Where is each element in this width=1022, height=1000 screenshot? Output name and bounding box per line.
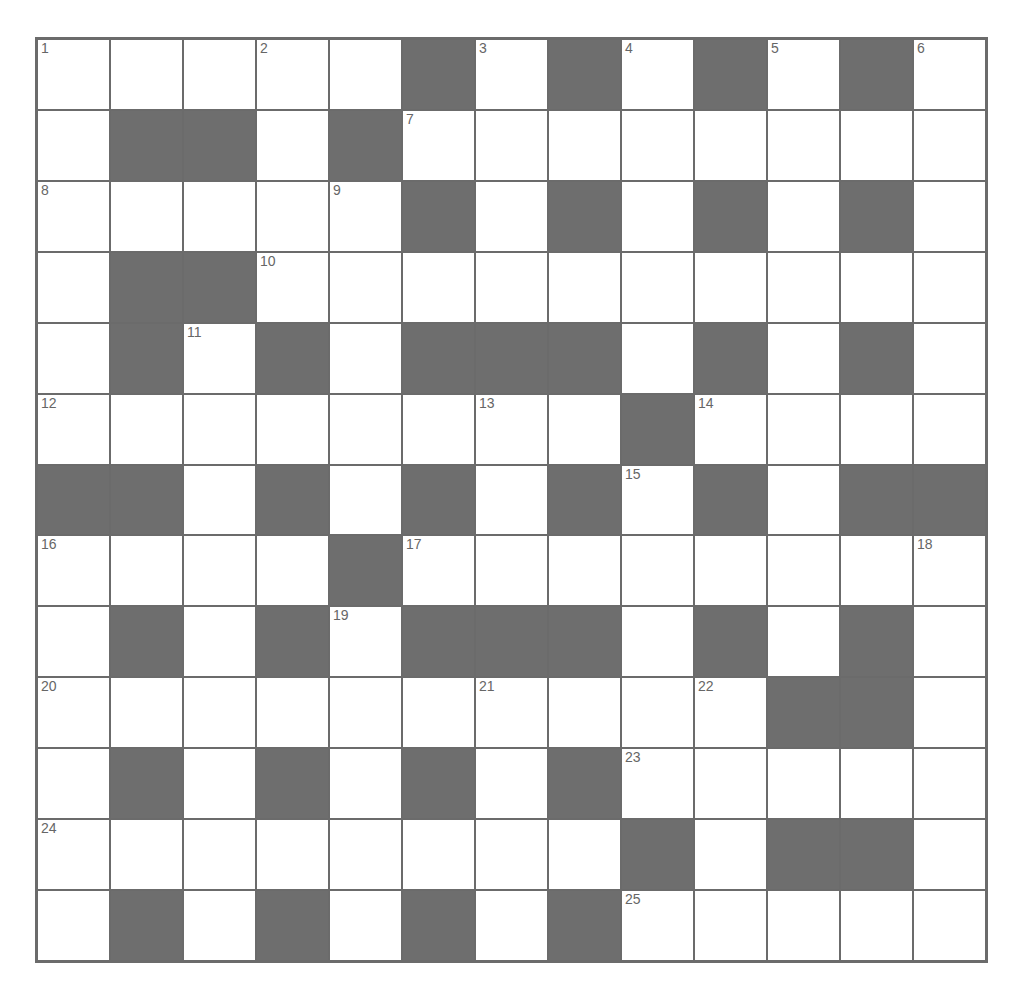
answer-cell[interactable] xyxy=(549,395,620,464)
answer-cell[interactable]: 11 xyxy=(184,324,255,393)
answer-cell[interactable]: 8 xyxy=(38,182,109,251)
answer-cell[interactable] xyxy=(111,395,182,464)
answer-cell[interactable]: 17 xyxy=(403,536,474,605)
answer-cell[interactable] xyxy=(330,749,401,818)
answer-cell[interactable] xyxy=(330,466,401,535)
answer-cell[interactable] xyxy=(695,749,766,818)
answer-cell[interactable] xyxy=(914,253,985,322)
answer-cell[interactable] xyxy=(184,607,255,676)
answer-cell[interactable]: 5 xyxy=(768,40,839,109)
answer-cell[interactable]: 3 xyxy=(476,40,547,109)
answer-cell[interactable] xyxy=(330,678,401,747)
answer-cell[interactable] xyxy=(768,749,839,818)
answer-cell[interactable] xyxy=(111,536,182,605)
answer-cell[interactable] xyxy=(403,820,474,889)
answer-cell[interactable] xyxy=(111,40,182,109)
answer-cell[interactable] xyxy=(768,466,839,535)
answer-cell[interactable] xyxy=(184,678,255,747)
answer-cell[interactable] xyxy=(476,749,547,818)
answer-cell[interactable] xyxy=(695,253,766,322)
answer-cell[interactable] xyxy=(184,749,255,818)
answer-cell[interactable] xyxy=(768,253,839,322)
answer-cell[interactable] xyxy=(622,536,693,605)
answer-cell[interactable] xyxy=(768,536,839,605)
answer-cell[interactable]: 25 xyxy=(622,891,693,960)
answer-cell[interactable] xyxy=(622,324,693,393)
answer-cell[interactable] xyxy=(403,395,474,464)
answer-cell[interactable] xyxy=(330,395,401,464)
answer-cell[interactable]: 13 xyxy=(476,395,547,464)
answer-cell[interactable] xyxy=(622,111,693,180)
answer-cell[interactable] xyxy=(695,536,766,605)
answer-cell[interactable] xyxy=(476,536,547,605)
answer-cell[interactable] xyxy=(841,749,912,818)
answer-cell[interactable]: 24 xyxy=(38,820,109,889)
answer-cell[interactable] xyxy=(38,324,109,393)
answer-cell[interactable] xyxy=(914,820,985,889)
answer-cell[interactable]: 16 xyxy=(38,536,109,605)
answer-cell[interactable]: 15 xyxy=(622,466,693,535)
answer-cell[interactable] xyxy=(622,607,693,676)
answer-cell[interactable] xyxy=(257,820,328,889)
answer-cell[interactable] xyxy=(257,111,328,180)
answer-cell[interactable] xyxy=(476,253,547,322)
answer-cell[interactable]: 1 xyxy=(38,40,109,109)
answer-cell[interactable]: 14 xyxy=(695,395,766,464)
answer-cell[interactable] xyxy=(403,678,474,747)
answer-cell[interactable] xyxy=(768,324,839,393)
answer-cell[interactable]: 12 xyxy=(38,395,109,464)
answer-cell[interactable] xyxy=(403,253,474,322)
answer-cell[interactable]: 7 xyxy=(403,111,474,180)
answer-cell[interactable]: 4 xyxy=(622,40,693,109)
answer-cell[interactable]: 18 xyxy=(914,536,985,605)
answer-cell[interactable] xyxy=(549,820,620,889)
answer-cell[interactable] xyxy=(257,395,328,464)
answer-cell[interactable] xyxy=(841,536,912,605)
answer-cell[interactable] xyxy=(622,182,693,251)
answer-cell[interactable] xyxy=(914,111,985,180)
answer-cell[interactable] xyxy=(184,40,255,109)
answer-cell[interactable] xyxy=(476,820,547,889)
answer-cell[interactable] xyxy=(330,253,401,322)
answer-cell[interactable] xyxy=(622,253,693,322)
answer-cell[interactable] xyxy=(38,749,109,818)
answer-cell[interactable]: 9 xyxy=(330,182,401,251)
answer-cell[interactable]: 23 xyxy=(622,749,693,818)
answer-cell[interactable] xyxy=(476,891,547,960)
answer-cell[interactable] xyxy=(549,536,620,605)
answer-cell[interactable] xyxy=(768,891,839,960)
answer-cell[interactable]: 22 xyxy=(695,678,766,747)
answer-cell[interactable] xyxy=(914,891,985,960)
answer-cell[interactable] xyxy=(549,253,620,322)
answer-cell[interactable] xyxy=(695,891,766,960)
answer-cell[interactable] xyxy=(257,536,328,605)
answer-cell[interactable] xyxy=(841,111,912,180)
answer-cell[interactable]: 19 xyxy=(330,607,401,676)
answer-cell[interactable] xyxy=(111,182,182,251)
answer-cell[interactable] xyxy=(768,111,839,180)
answer-cell[interactable] xyxy=(549,678,620,747)
answer-cell[interactable] xyxy=(184,466,255,535)
answer-cell[interactable] xyxy=(330,891,401,960)
answer-cell[interactable] xyxy=(914,395,985,464)
answer-cell[interactable] xyxy=(257,182,328,251)
answer-cell[interactable] xyxy=(184,536,255,605)
answer-cell[interactable] xyxy=(841,891,912,960)
answer-cell[interactable] xyxy=(38,607,109,676)
answer-cell[interactable] xyxy=(695,111,766,180)
answer-cell[interactable] xyxy=(111,678,182,747)
answer-cell[interactable] xyxy=(768,182,839,251)
answer-cell[interactable] xyxy=(914,324,985,393)
answer-cell[interactable] xyxy=(38,253,109,322)
answer-cell[interactable] xyxy=(184,395,255,464)
answer-cell[interactable] xyxy=(476,182,547,251)
answer-cell[interactable] xyxy=(914,607,985,676)
answer-cell[interactable] xyxy=(768,607,839,676)
answer-cell[interactable]: 21 xyxy=(476,678,547,747)
answer-cell[interactable] xyxy=(38,891,109,960)
answer-cell[interactable] xyxy=(184,891,255,960)
answer-cell[interactable] xyxy=(914,182,985,251)
answer-cell[interactable] xyxy=(38,111,109,180)
answer-cell[interactable] xyxy=(914,678,985,747)
answer-cell[interactable] xyxy=(257,678,328,747)
